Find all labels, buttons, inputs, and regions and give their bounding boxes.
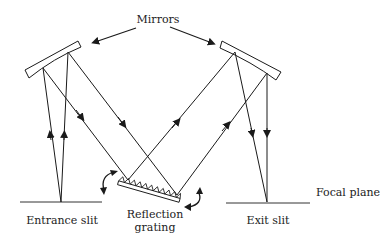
exit-slit-label: Exit slit — [247, 214, 290, 227]
focused-rays-to-exit — [235, 52, 267, 202]
rotate-arrow-left-icon — [100, 170, 118, 195]
reflection-grating-label-line2: grating — [135, 221, 176, 234]
mirrors-label: Mirrors — [137, 13, 180, 26]
mirrors-pointer-arrows — [95, 27, 212, 43]
diffracted-rays — [128, 52, 267, 195]
left-mirror — [25, 41, 81, 78]
right-mirror — [220, 41, 281, 80]
focal-plane-label: Focal plane — [316, 186, 380, 199]
entrance-slit-label: Entrance slit — [26, 214, 98, 227]
rotate-arrow-right-icon — [184, 187, 203, 211]
reflection-grating-label-line1: Reflection — [127, 208, 183, 221]
diagram-canvas — [0, 0, 383, 244]
incident-rays — [43, 52, 68, 202]
monochromator-diagram: Mirrors Entrance slit Reflection grating… — [0, 0, 383, 244]
